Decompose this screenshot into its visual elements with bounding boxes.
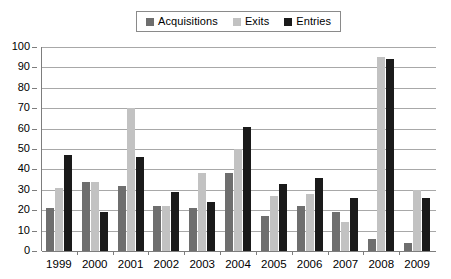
x-tick-mark bbox=[292, 251, 293, 255]
y-axis: 0102030405060708090100 bbox=[0, 0, 41, 279]
bar[interactable] bbox=[64, 155, 72, 251]
legend-label: Exits bbox=[245, 16, 269, 27]
y-tick-mark bbox=[32, 67, 37, 68]
y-tick-label: 40 bbox=[18, 163, 30, 174]
x-tick-label: 2000 bbox=[82, 258, 108, 270]
y-tick-label: 60 bbox=[18, 123, 30, 134]
bar[interactable] bbox=[350, 198, 358, 251]
x-tick-mark bbox=[113, 251, 114, 255]
x-tick-mark bbox=[399, 251, 400, 255]
x-tick-label: 2008 bbox=[368, 258, 394, 270]
bar[interactable] bbox=[413, 190, 421, 251]
legend-item-acquisitions[interactable]: Acquisitions bbox=[146, 16, 218, 27]
bar[interactable] bbox=[91, 182, 99, 251]
y-tick-label: 90 bbox=[18, 61, 30, 72]
bar[interactable] bbox=[377, 57, 385, 251]
bar[interactable] bbox=[225, 173, 233, 251]
legend-swatch-icon bbox=[146, 18, 154, 26]
bar[interactable] bbox=[306, 194, 314, 251]
y-tick-label: 70 bbox=[18, 102, 30, 113]
bar[interactable] bbox=[332, 212, 340, 251]
bar[interactable] bbox=[55, 188, 63, 251]
y-tick-mark bbox=[32, 251, 37, 252]
bar-group bbox=[118, 47, 144, 251]
bar-group bbox=[153, 47, 179, 251]
y-tick-label: 50 bbox=[18, 143, 30, 154]
y-tick-label: 30 bbox=[18, 184, 30, 195]
bar[interactable] bbox=[127, 108, 135, 251]
y-tick-mark bbox=[32, 231, 37, 232]
bar[interactable] bbox=[46, 208, 54, 251]
x-tick-label: 2009 bbox=[404, 258, 430, 270]
legend-swatch-icon bbox=[233, 18, 241, 26]
x-tick-mark bbox=[184, 251, 185, 255]
y-tick-mark bbox=[32, 88, 37, 89]
bar[interactable] bbox=[404, 243, 412, 251]
y-tick-mark bbox=[32, 47, 37, 48]
chart-legend: AcquisitionsExitsEntries bbox=[136, 11, 341, 32]
bar-group bbox=[297, 47, 323, 251]
bar[interactable] bbox=[297, 206, 305, 251]
bar-group bbox=[332, 47, 358, 251]
bar[interactable] bbox=[234, 149, 242, 251]
bar[interactable] bbox=[82, 182, 90, 251]
y-tick-mark bbox=[32, 190, 37, 191]
bar[interactable] bbox=[386, 59, 394, 251]
x-tick-mark bbox=[363, 251, 364, 255]
legend-item-exits[interactable]: Exits bbox=[233, 16, 269, 27]
bar[interactable] bbox=[368, 239, 376, 251]
legend-swatch-icon bbox=[284, 18, 292, 26]
y-tick-label: 10 bbox=[18, 225, 30, 236]
x-tick-label: 2004 bbox=[225, 258, 251, 270]
bar[interactable] bbox=[198, 173, 206, 251]
bar[interactable] bbox=[162, 206, 170, 251]
x-tick-label: 1999 bbox=[46, 258, 72, 270]
x-axis: 1999200020012002200320042005200620072008… bbox=[41, 251, 435, 279]
bar[interactable] bbox=[261, 216, 269, 251]
bar[interactable] bbox=[422, 198, 430, 251]
bar[interactable] bbox=[279, 184, 287, 251]
bar[interactable] bbox=[243, 127, 251, 251]
bar[interactable] bbox=[171, 192, 179, 251]
x-tick-mark bbox=[220, 251, 221, 255]
bars-layer bbox=[41, 47, 435, 251]
bar-group bbox=[225, 47, 251, 251]
y-tick-label: 80 bbox=[18, 82, 30, 93]
bar[interactable] bbox=[207, 202, 215, 251]
y-tick-mark bbox=[32, 169, 37, 170]
y-tick-mark bbox=[32, 149, 37, 150]
bar-group bbox=[189, 47, 215, 251]
bar-chart: AcquisitionsExitsEntries 010203040506070… bbox=[0, 0, 451, 279]
y-tick-mark bbox=[32, 108, 37, 109]
y-tick-mark bbox=[32, 129, 37, 130]
y-tick-mark bbox=[32, 210, 37, 211]
bar-group bbox=[404, 47, 430, 251]
bar-group bbox=[261, 47, 287, 251]
bar[interactable] bbox=[341, 222, 349, 251]
bar-group bbox=[46, 47, 72, 251]
legend-label: Entries bbox=[296, 16, 331, 27]
y-tick-label: 100 bbox=[12, 41, 30, 52]
bar[interactable] bbox=[189, 208, 197, 251]
bar[interactable] bbox=[136, 157, 144, 251]
x-tick-mark bbox=[77, 251, 78, 255]
x-tick-label: 2006 bbox=[297, 258, 323, 270]
bar[interactable] bbox=[100, 212, 108, 251]
bar[interactable] bbox=[315, 178, 323, 251]
bar-group bbox=[368, 47, 394, 251]
bar[interactable] bbox=[153, 206, 161, 251]
x-tick-mark bbox=[256, 251, 257, 255]
bar[interactable] bbox=[118, 186, 126, 251]
legend-label: Acquisitions bbox=[158, 16, 218, 27]
x-tick-label: 2001 bbox=[118, 258, 144, 270]
bar-group bbox=[82, 47, 108, 251]
x-tick-mark bbox=[148, 251, 149, 255]
x-tick-label: 2005 bbox=[261, 258, 287, 270]
y-tick-label: 0 bbox=[24, 245, 30, 256]
y-tick-label: 20 bbox=[18, 204, 30, 215]
x-tick-label: 2002 bbox=[154, 258, 180, 270]
bar[interactable] bbox=[270, 196, 278, 251]
legend-item-entries[interactable]: Entries bbox=[284, 16, 331, 27]
x-tick-label: 2003 bbox=[189, 258, 215, 270]
x-tick-mark bbox=[328, 251, 329, 255]
